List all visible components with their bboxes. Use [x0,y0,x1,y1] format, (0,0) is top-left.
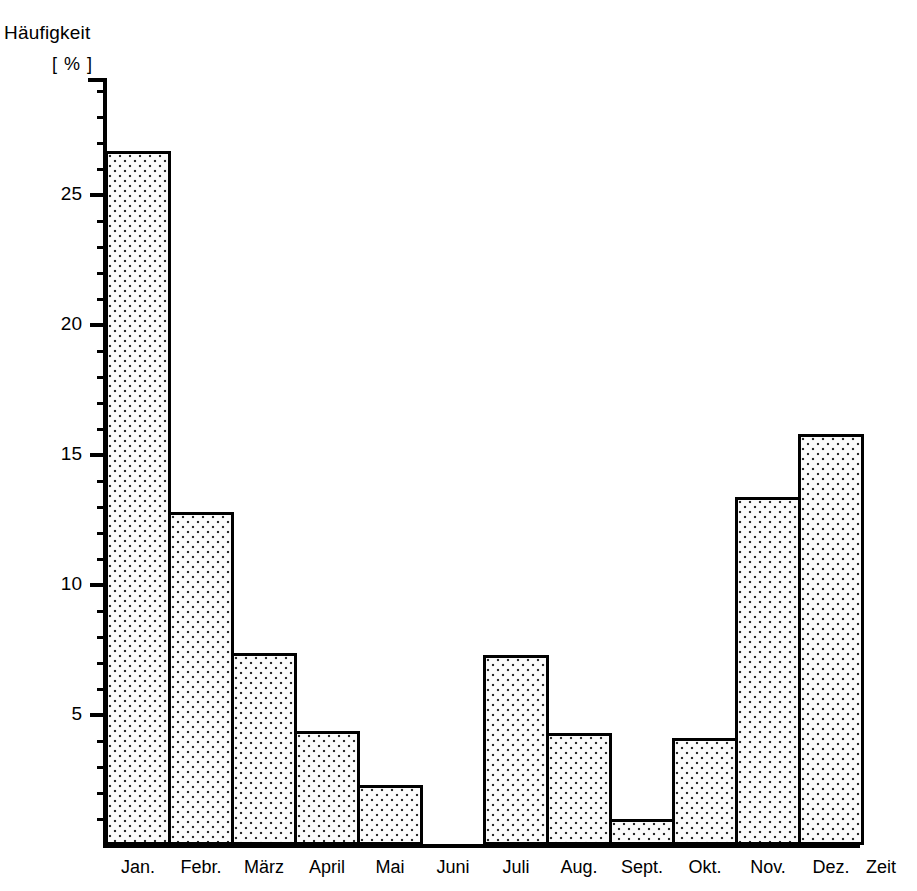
bar-nov [735,497,801,845]
x-tick-label-aug: Aug. [546,857,612,878]
bar-mai [357,785,423,845]
bar-dez [798,434,864,845]
x-axis-title: Zeit [866,857,896,878]
y-tick-label: 25 [22,183,82,205]
y-tick-minor [97,116,107,119]
bar-okt [672,738,738,845]
y-tick-label: 10 [22,573,82,595]
x-tick-label-okt: Okt. [672,857,738,878]
x-tick-label-sept: Sept. [609,857,675,878]
bar-sept [609,819,675,845]
bar-jan [105,151,171,845]
y-tick-label: 5 [22,703,82,725]
y-tick-minor [97,142,107,145]
bar-märz [231,653,297,845]
y-tick-label: 20 [22,313,82,335]
x-tick-label-juli: Juli [483,857,549,878]
bar-febr [168,512,234,845]
x-tick-label-dez: Dez. [798,857,864,878]
x-tick-label-märz: März [231,857,297,878]
x-tick-label-juni: Juni [420,857,486,878]
bar-april [294,731,360,845]
y-tick-label: 15 [22,443,82,465]
y-tick-minor [97,90,107,93]
plot-area: 510152025 Jan.Febr.MärzAprilMaiJuniJuliA… [0,0,917,891]
bar-juli [483,655,549,845]
bar-aug [546,733,612,845]
x-tick-label-april: April [294,857,360,878]
x-tick-label-mai: Mai [357,857,423,878]
histogram-chart: Häufigkeit [ % ] 510152025 Jan.Febr.März… [0,0,917,891]
x-tick-label-febr: Febr. [168,857,234,878]
x-tick-label-jan: Jan. [105,857,171,878]
x-tick-label-nov: Nov. [735,857,801,878]
